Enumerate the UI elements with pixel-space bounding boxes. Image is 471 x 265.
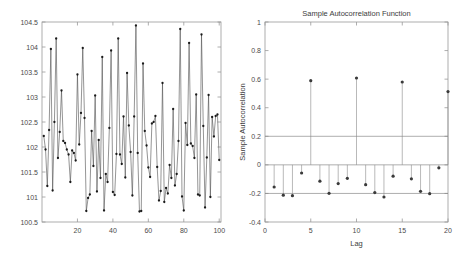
data-point	[170, 177, 172, 179]
data-point	[51, 189, 53, 191]
acf-plot-group: -0.4-0.200.20.40.60.8105101520Sample Aut…	[238, 9, 452, 248]
acf-stem-marker	[282, 194, 285, 197]
timeseries-plot-group: 100.5101101.5102102.5103103.5104104.5204…	[20, 19, 225, 234]
acf-stem-marker	[318, 180, 321, 183]
acf-stem-marker	[273, 185, 276, 188]
data-point	[142, 62, 144, 64]
data-point	[160, 190, 162, 192]
data-point	[158, 199, 160, 201]
data-point	[218, 159, 220, 161]
data-point	[176, 173, 178, 175]
data-point	[188, 42, 190, 44]
data-point	[67, 153, 69, 155]
y-tick-label: 0	[257, 161, 261, 168]
data-point	[75, 159, 77, 161]
data-point	[135, 24, 137, 26]
data-point	[202, 125, 204, 127]
acf-stem-marker	[291, 194, 294, 197]
figure-canvas: 100.5101101.5102102.5103103.5104104.5204…	[0, 0, 471, 265]
data-point	[62, 140, 64, 142]
data-point	[89, 193, 91, 195]
data-point	[44, 148, 46, 150]
data-point	[76, 73, 78, 75]
data-point	[149, 176, 151, 178]
timeseries-plot-svg: 100.5101101.5102102.5103103.5104104.5204…	[0, 0, 236, 265]
data-point	[124, 176, 126, 178]
data-point	[145, 144, 147, 146]
autocorrelation-plot-panel: -0.4-0.200.20.40.60.8105101520Sample Aut…	[236, 0, 471, 265]
data-point	[114, 194, 116, 196]
data-point	[193, 157, 195, 159]
acf-stem-marker	[300, 171, 303, 174]
data-point	[73, 152, 75, 154]
data-point	[66, 148, 68, 150]
data-point	[98, 139, 100, 141]
data-point	[85, 210, 87, 212]
data-point	[96, 190, 98, 192]
data-point	[168, 164, 170, 166]
data-point	[144, 130, 146, 132]
timeseries-markers	[43, 24, 221, 212]
acf-stem-marker	[446, 90, 449, 93]
y-tick-label: 100.5	[20, 219, 38, 226]
data-point	[195, 93, 197, 95]
timeseries-line	[44, 26, 219, 212]
y-tick-label: 104.5	[20, 19, 38, 26]
data-point	[90, 130, 92, 132]
y-tick-label: -0.4	[249, 219, 261, 226]
acf-stem-marker	[327, 192, 330, 195]
data-point	[191, 145, 193, 147]
x-tick-label: 100	[213, 227, 225, 234]
data-point	[183, 209, 185, 211]
y-tick-label: 103.5	[20, 69, 38, 76]
data-point	[106, 181, 108, 183]
data-point	[64, 142, 66, 144]
plot-frame	[42, 22, 221, 222]
x-tick-label: 60	[144, 227, 152, 234]
data-point	[78, 143, 80, 145]
data-point	[215, 115, 217, 117]
timeseries-plot-panel: 100.5101101.5102102.5103103.5104104.5204…	[0, 0, 236, 265]
acf-plot-title: Sample Autocorrelation Function	[302, 9, 410, 18]
data-point	[126, 72, 128, 74]
data-point	[92, 165, 94, 167]
acf-xaxis-label: Lag	[350, 239, 363, 248]
data-point	[99, 177, 101, 179]
y-tick-label: 102	[26, 144, 38, 151]
data-point	[110, 49, 112, 51]
acf-stem-marker	[309, 79, 312, 82]
autocorrelation-plot-svg: -0.4-0.200.20.40.60.8105101520Sample Aut…	[236, 0, 471, 265]
acf-stem-marker	[437, 166, 440, 169]
acf-stem-marker	[346, 177, 349, 180]
data-point	[82, 47, 84, 49]
y-tick-label: 104	[26, 44, 38, 51]
data-point	[140, 210, 142, 212]
y-tick-label: 0.6	[251, 76, 261, 83]
acf-stem-marker	[364, 183, 367, 186]
data-point	[204, 206, 206, 208]
data-point	[71, 149, 73, 151]
acf-stems	[273, 76, 450, 198]
data-point	[43, 135, 45, 137]
data-point	[119, 153, 121, 155]
x-tick-label: 5	[309, 227, 313, 234]
data-point	[133, 115, 135, 117]
data-point	[115, 153, 117, 155]
x-tick-label: 80	[180, 227, 188, 234]
data-point	[69, 181, 71, 183]
data-point	[177, 140, 179, 142]
y-tick-label: 101	[26, 194, 38, 201]
data-point	[200, 33, 202, 35]
data-point	[105, 173, 107, 175]
data-point	[129, 151, 131, 153]
x-tick-label: 40	[109, 227, 117, 234]
acf-stem-marker	[373, 191, 376, 194]
x-tick-label: 10	[353, 227, 361, 234]
data-point	[122, 115, 124, 117]
data-point	[165, 187, 167, 189]
data-point	[190, 142, 192, 144]
data-point	[83, 117, 85, 119]
data-point	[50, 48, 52, 50]
data-point	[53, 121, 55, 123]
data-point	[199, 194, 201, 196]
